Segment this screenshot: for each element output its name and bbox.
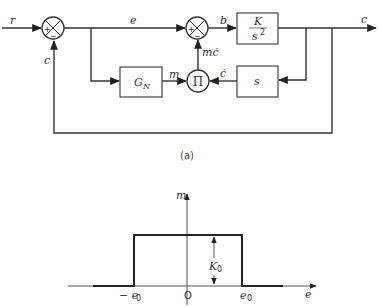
svg-text:2: 2 <box>260 28 265 37</box>
label-b: b <box>220 14 227 27</box>
label-cdot: ċ <box>220 67 226 80</box>
block-diagram-canvas: r + − e G N m Π mċ + − b K <box>0 0 379 307</box>
svg-text:−: − <box>194 32 201 41</box>
y-axis-label: m <box>176 189 186 202</box>
pulse-curve <box>93 235 283 286</box>
tick-pos-e0: e <box>240 289 247 302</box>
gn-block: G N <box>120 67 162 97</box>
svg-text:N: N <box>142 82 151 91</box>
label-m: m <box>169 68 179 81</box>
multiplier-node: Π <box>187 70 209 92</box>
sj1-minus: − <box>50 32 57 41</box>
pulse-plot: m e K 0 − e 0 O e 0 <box>68 189 316 305</box>
svg-text:K: K <box>253 15 263 28</box>
plant-block: K s 2 <box>237 13 278 44</box>
svg-text:Π: Π <box>193 75 203 89</box>
label-c-out: c <box>361 13 367 26</box>
summing-junction-1: + − <box>42 17 64 41</box>
svg-text:s: s <box>254 75 260 88</box>
svg-text:s: s <box>252 30 258 43</box>
x-axis-label: e <box>305 288 312 301</box>
differentiator-block: s <box>237 66 278 97</box>
branch-to-s <box>279 28 306 80</box>
label-mcdot: mċ <box>202 46 219 59</box>
branch-to-gn <box>91 28 119 81</box>
svg-text:G: G <box>134 76 143 89</box>
svg-text:0: 0 <box>217 265 222 274</box>
label-c-fb: c <box>44 54 50 67</box>
caption-a: (a) <box>180 150 194 161</box>
label-e: e <box>130 14 137 27</box>
label-r: r <box>10 14 16 27</box>
svg-text:0: 0 <box>247 294 252 303</box>
svg-text:0: 0 <box>136 294 141 303</box>
tick-origin: O <box>184 290 192 301</box>
summing-junction-2: + − <box>186 17 208 41</box>
